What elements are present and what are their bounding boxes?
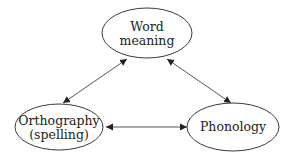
node-word-meaning-label-line1: Word bbox=[130, 19, 164, 34]
node-phonology-label: Phonology bbox=[200, 119, 267, 134]
node-word-meaning: Word meaning bbox=[102, 8, 192, 58]
edge-meaning-orthography bbox=[63, 59, 127, 103]
reading-triangle-diagram: Word meaning Orthography (spelling) Phon… bbox=[0, 0, 291, 158]
node-word-meaning-label-line2: meaning bbox=[120, 33, 175, 48]
edge-meaning-phonology bbox=[167, 59, 231, 103]
node-orthography-label-line1: Orthography bbox=[18, 113, 100, 128]
node-orthography-label-line2: (spelling) bbox=[29, 127, 89, 142]
node-phonology: Phonology bbox=[187, 103, 279, 151]
node-orthography: Orthography (spelling) bbox=[15, 104, 103, 150]
